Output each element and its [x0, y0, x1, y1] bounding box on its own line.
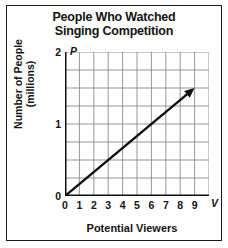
x-axis-tick-label: 4	[116, 200, 130, 210]
plot-area	[65, 52, 209, 196]
y-axis-tick-label: 2	[47, 47, 61, 57]
x-axis-tick-label: 6	[144, 200, 158, 210]
y-axis-variable-label: P	[70, 45, 77, 57]
x-axis-tick-label: 1	[72, 200, 86, 210]
y-axis-label-line-1: Number of People	[12, 39, 24, 129]
x-axis-variable-label: V	[211, 197, 218, 209]
x-axis-tick-label: 3	[101, 200, 115, 210]
y-axis-label-line-2: (millions)	[24, 39, 36, 129]
x-axis-tick-label: 9	[188, 200, 202, 210]
chart-title-line-1: People Who Watched	[14, 10, 214, 24]
figure-canvas: People Who Watched Singing Competition N…	[0, 0, 228, 248]
x-axis-tick-label: 5	[130, 200, 144, 210]
x-axis-label: Potential Viewers	[52, 222, 212, 234]
chart-title: People Who Watched Singing Competition	[14, 10, 214, 38]
x-axis-tick-label: 8	[173, 200, 187, 210]
plot-svg	[65, 52, 209, 196]
data-line	[65, 93, 188, 196]
x-axis-tick-label: 7	[159, 200, 173, 210]
y-axis-tick-label: 1	[47, 119, 61, 129]
chart-title-line-2: Singing Competition	[14, 24, 214, 38]
y-axis-tick-label: 0	[47, 191, 61, 201]
x-axis-tick-label: 2	[87, 200, 101, 210]
grid-lines	[65, 52, 209, 196]
y-axis-label: Number of People (millions)	[12, 39, 36, 129]
y-axis-label-container: Number of People (millions)	[6, 24, 42, 144]
